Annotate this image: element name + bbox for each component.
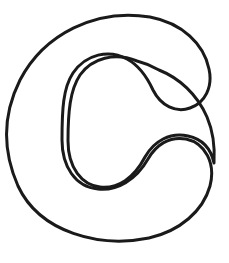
drawing-canvas — [0, 0, 229, 263]
letter-c-outline-graphic — [0, 0, 229, 263]
